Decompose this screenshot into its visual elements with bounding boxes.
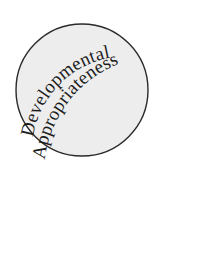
figure-root: Developmental Appropriateness bbox=[0, 0, 224, 258]
diagram-canvas: Developmental Appropriateness bbox=[0, 0, 224, 258]
